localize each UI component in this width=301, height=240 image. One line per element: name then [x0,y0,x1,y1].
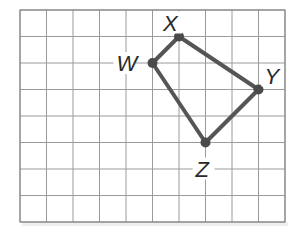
vertex-label-z: Z [195,157,211,182]
vertex-label-w: W [117,51,140,76]
grid-canvas: XWYZ [0,0,301,240]
grid-lines [20,10,285,222]
vertex-point-w [148,58,158,68]
vertex-label-x: X [162,11,179,36]
vertex-label-y: Y [265,64,281,89]
vertex-point-z [201,138,211,148]
grid-shadow [22,222,288,226]
quadrilateral-diagram: XWYZ X W Y Z [0,0,301,240]
